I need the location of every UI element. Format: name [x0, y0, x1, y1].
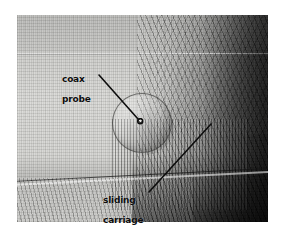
label-sliding-carriage: sliding carriage: [103, 185, 143, 235]
label-coax-probe-line2: probe: [62, 94, 91, 104]
label-sliding-carriage-line2: carriage: [103, 215, 143, 225]
label-sliding-carriage-line1: sliding: [103, 195, 143, 205]
coax-probe-point: [138, 118, 143, 123]
label-coax-probe: coax probe: [62, 64, 91, 114]
probe-disc: [112, 93, 172, 153]
figure-root: coax probe sliding carriage: [0, 0, 285, 238]
label-coax-probe-line1: coax: [62, 74, 91, 84]
